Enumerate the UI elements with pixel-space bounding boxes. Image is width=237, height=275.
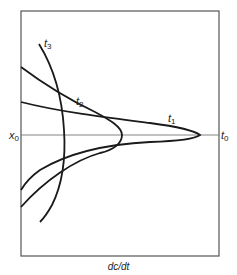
diffusion-profile-diagram [0, 0, 237, 275]
label-t2: t2 [76, 96, 84, 109]
curve-t2 [21, 67, 122, 207]
x-axis-label: dc/dt [0, 261, 237, 272]
label-t1: t1 [168, 113, 176, 126]
label-t3: t3 [44, 38, 52, 51]
label-x0: x0 [9, 130, 19, 143]
curve-t3 [39, 44, 65, 222]
label-t0: t0 [221, 130, 229, 143]
